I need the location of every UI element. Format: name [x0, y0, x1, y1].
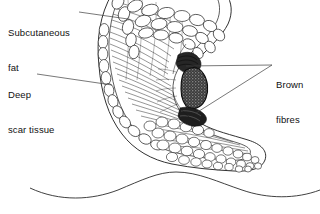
brown-fibres-core [181, 68, 208, 109]
label-deep-scar-tissue-line2: scar tissue [8, 124, 55, 136]
label-deep-scar-tissue-line1: Deep [8, 89, 55, 101]
label-brown-fibres: Brown fibres [276, 56, 303, 137]
label-brown-fibres-line2: fibres [276, 114, 303, 126]
label-deep-scar-tissue: Deep scar tissue [8, 66, 55, 147]
label-subcutaneous-fat-line1: Subcutaneous [8, 27, 70, 39]
label-brown-fibres-line1: Brown [276, 79, 303, 91]
